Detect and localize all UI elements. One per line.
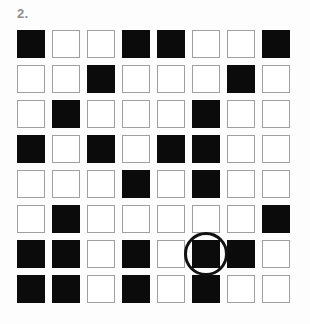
grid-cell-r8-c8[interactable] <box>262 275 290 303</box>
grid-cell-r2-c3[interactable] <box>87 65 115 93</box>
grid-cell-r7-c2[interactable] <box>52 240 80 268</box>
grid-cell-r8-c6[interactable] <box>192 275 220 303</box>
pattern-grid <box>17 30 290 303</box>
grid-cell-r3-c5[interactable] <box>157 100 185 128</box>
grid-cell-r4-c4[interactable] <box>122 135 150 163</box>
grid-cell-r6-c7[interactable] <box>227 205 255 233</box>
grid-cell-r2-c1[interactable] <box>17 65 45 93</box>
grid-cell-r7-c3[interactable] <box>87 240 115 268</box>
grid-cell-r4-c3[interactable] <box>87 135 115 163</box>
grid-cell-r6-c5[interactable] <box>157 205 185 233</box>
grid-cell-r3-c3[interactable] <box>87 100 115 128</box>
grid-cell-r5-c6[interactable] <box>192 170 220 198</box>
grid-cell-r7-c6[interactable] <box>192 240 220 268</box>
grid-cell-r7-c1[interactable] <box>17 240 45 268</box>
grid-cell-r5-c7[interactable] <box>227 170 255 198</box>
grid-cell-r2-c8[interactable] <box>262 65 290 93</box>
grid-cell-r6-c1[interactable] <box>17 205 45 233</box>
grid-cell-r4-c2[interactable] <box>52 135 80 163</box>
grid-cell-r5-c3[interactable] <box>87 170 115 198</box>
grid-cell-r5-c5[interactable] <box>157 170 185 198</box>
grid-cell-r8-c4[interactable] <box>122 275 150 303</box>
grid-cell-r3-c8[interactable] <box>262 100 290 128</box>
grid-cell-r1-c5[interactable] <box>157 30 185 58</box>
grid-cell-r1-c1[interactable] <box>17 30 45 58</box>
grid-cell-r7-c8[interactable] <box>262 240 290 268</box>
grid-cell-r6-c6[interactable] <box>192 205 220 233</box>
grid-cell-r5-c2[interactable] <box>52 170 80 198</box>
grid-cell-r1-c8[interactable] <box>262 30 290 58</box>
figure-number-label: 2. <box>17 6 28 22</box>
grid-cell-r6-c4[interactable] <box>122 205 150 233</box>
grid-cell-r2-c2[interactable] <box>52 65 80 93</box>
grid-cell-r7-c5[interactable] <box>157 240 185 268</box>
grid-cell-r2-c5[interactable] <box>157 65 185 93</box>
puzzle-figure: 2. <box>0 0 310 324</box>
grid-cell-r4-c6[interactable] <box>192 135 220 163</box>
grid-cell-r7-c4[interactable] <box>122 240 150 268</box>
grid-cell-r7-c7[interactable] <box>227 240 255 268</box>
grid-cell-r8-c3[interactable] <box>87 275 115 303</box>
grid-cell-r8-c2[interactable] <box>52 275 80 303</box>
grid-cell-r8-c5[interactable] <box>157 275 185 303</box>
grid-cell-r1-c2[interactable] <box>52 30 80 58</box>
grid-cell-r6-c8[interactable] <box>262 205 290 233</box>
grid-cell-r8-c7[interactable] <box>227 275 255 303</box>
grid-cell-r1-c4[interactable] <box>122 30 150 58</box>
grid-cell-r3-c2[interactable] <box>52 100 80 128</box>
grid-cell-r1-c7[interactable] <box>227 30 255 58</box>
grid-cell-r2-c6[interactable] <box>192 65 220 93</box>
grid-cell-r1-c6[interactable] <box>192 30 220 58</box>
grid-cell-r3-c4[interactable] <box>122 100 150 128</box>
grid-cell-r3-c1[interactable] <box>17 100 45 128</box>
grid-cell-r8-c1[interactable] <box>17 275 45 303</box>
grid-cell-r5-c8[interactable] <box>262 170 290 198</box>
grid-cell-r4-c8[interactable] <box>262 135 290 163</box>
grid-cell-r4-c1[interactable] <box>17 135 45 163</box>
grid-cell-r2-c7[interactable] <box>227 65 255 93</box>
grid-cell-r3-c7[interactable] <box>227 100 255 128</box>
grid-cell-r6-c3[interactable] <box>87 205 115 233</box>
grid-cell-r3-c6[interactable] <box>192 100 220 128</box>
grid-cell-r4-c7[interactable] <box>227 135 255 163</box>
grid-cell-r5-c4[interactable] <box>122 170 150 198</box>
grid-cell-r1-c3[interactable] <box>87 30 115 58</box>
grid-cell-r2-c4[interactable] <box>122 65 150 93</box>
grid-cell-r6-c2[interactable] <box>52 205 80 233</box>
grid-cell-r4-c5[interactable] <box>157 135 185 163</box>
grid-cell-r5-c1[interactable] <box>17 170 45 198</box>
